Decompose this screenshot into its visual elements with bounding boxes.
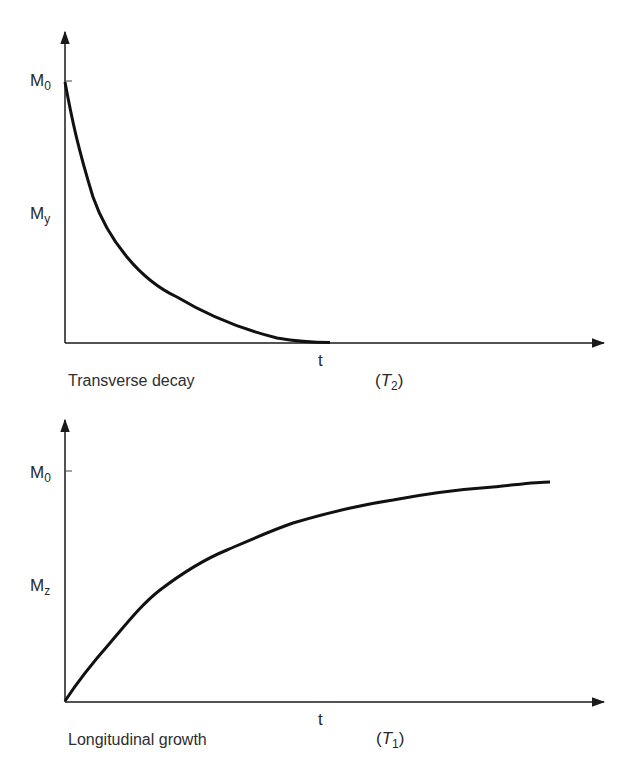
top-caption: Transverse decay [68,373,195,389]
bottom-x-label-t: t [318,711,323,728]
top-y-label-m0: M0 [30,72,51,92]
top-y-label-my: My [30,205,50,225]
top-x-label-t: t [318,352,323,369]
bottom-y-label-m0: M0 [30,464,51,484]
bottom-caption: Longitudinal growth [68,732,207,748]
bottom-y-label-mz: Mz [30,577,50,597]
transverse-decay-curve [65,82,330,343]
bottom-time-constant: (T1) [376,730,404,750]
longitudinal-growth-plot [65,420,604,702]
top-time-constant: (T2) [375,372,403,392]
transverse-decay-plot [65,32,604,343]
longitudinal-growth-curve [65,482,550,701]
